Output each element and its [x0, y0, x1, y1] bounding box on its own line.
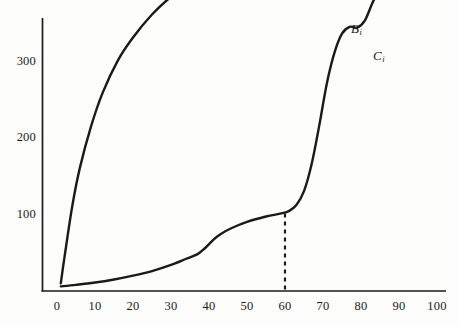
x-tick-label: 0: [54, 299, 60, 314]
x-tick-label: 10: [89, 299, 102, 314]
y-tick-label: 300: [4, 53, 36, 68]
plot-area: [0, 0, 458, 326]
curve-c-label: Ci: [373, 48, 384, 64]
y-tick-label: 100: [4, 207, 36, 222]
curve-c: [61, 0, 380, 286]
x-tick-label: 80: [355, 299, 368, 314]
curve-b: [61, 0, 354, 283]
x-tick-label: 40: [203, 299, 216, 314]
y-tick-label: 200: [4, 130, 36, 145]
x-tick-label: 90: [393, 299, 406, 314]
x-tick-label: 20: [127, 299, 140, 314]
x-tick-label: 30: [165, 299, 178, 314]
x-tick-label: 100: [427, 299, 446, 314]
x-tick-label: 50: [241, 299, 254, 314]
x-tick-label: 70: [317, 299, 330, 314]
x-tick-label: 60: [279, 299, 292, 314]
chart-figure: 100200300400500 0102030405060708090100 B…: [0, 0, 458, 326]
curve-b-label: Bi: [351, 21, 361, 37]
